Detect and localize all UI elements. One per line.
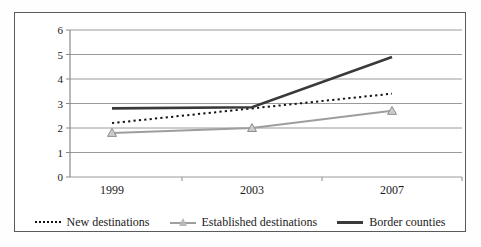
chart-canvas: 0123456199920032007 New destinations Est… <box>0 0 481 247</box>
legend-label: Border counties <box>369 216 445 228</box>
series-border-counties <box>112 57 392 108</box>
thick-line-icon <box>337 221 363 224</box>
line-chart-plot: 0123456199920032007 <box>15 13 465 231</box>
legend-label: Established destinations <box>202 216 318 228</box>
y-axis-label: 2 <box>58 122 64 134</box>
chart-legend: New destinations Established destination… <box>15 214 465 230</box>
chart-frame: 0123456199920032007 New destinations Est… <box>14 12 466 232</box>
triangle-marker-line-icon <box>170 218 196 227</box>
y-axis-label: 0 <box>58 171 64 183</box>
x-axis-label: 2003 <box>240 183 264 197</box>
y-axis-label: 3 <box>58 98 64 110</box>
triangle-marker-part <box>179 218 187 226</box>
legend-label: New destinations <box>67 216 150 228</box>
legend-item-established-destinations: Established destinations <box>170 216 318 228</box>
legend-item-border-counties: Border counties <box>337 216 445 228</box>
x-axis-label: 1999 <box>100 183 124 197</box>
x-axis-label: 2007 <box>380 183 404 197</box>
y-axis-label: 4 <box>58 73 64 85</box>
y-axis-label: 1 <box>58 147 64 159</box>
y-axis-label: 5 <box>58 49 64 61</box>
legend-item-new-destinations: New destinations <box>35 216 150 228</box>
y-axis-label: 6 <box>58 24 64 36</box>
dotted-line-icon <box>35 221 61 223</box>
